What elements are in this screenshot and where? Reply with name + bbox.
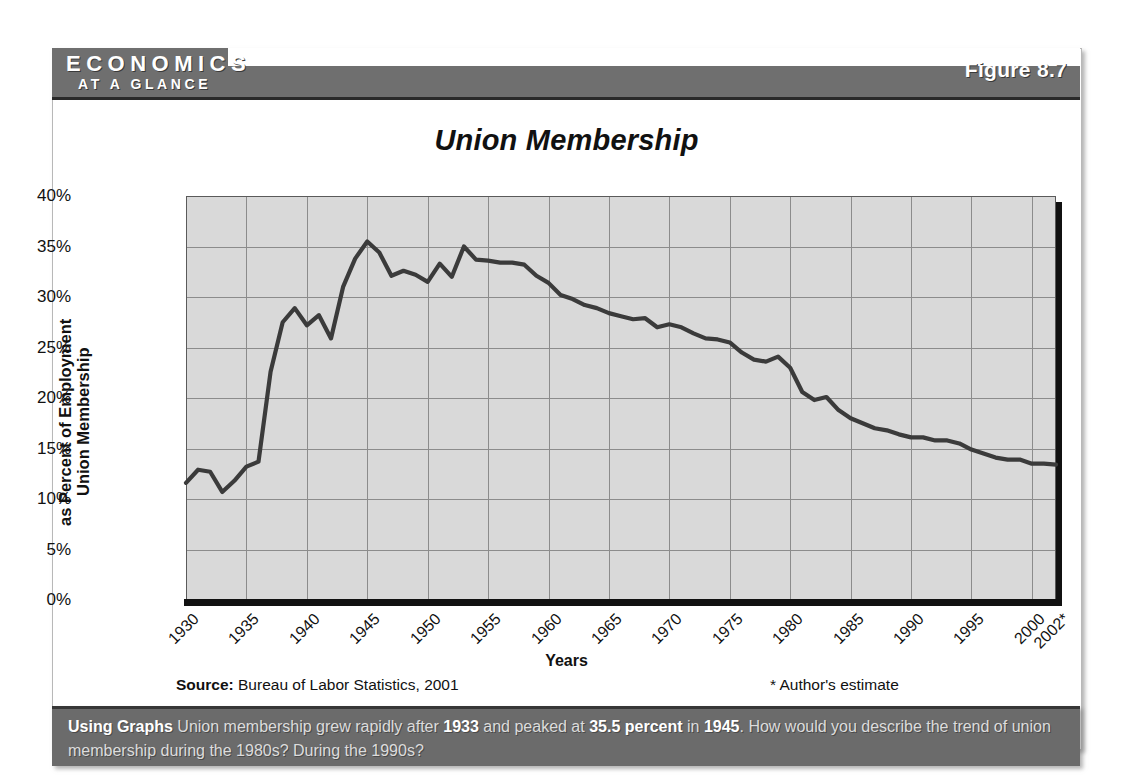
series-line-union-membership <box>0 0 1133 779</box>
data-line <box>186 241 1056 491</box>
figure-page: ECONOMICS AT A GLANCE Figure 8.7 Union M… <box>0 0 1133 779</box>
